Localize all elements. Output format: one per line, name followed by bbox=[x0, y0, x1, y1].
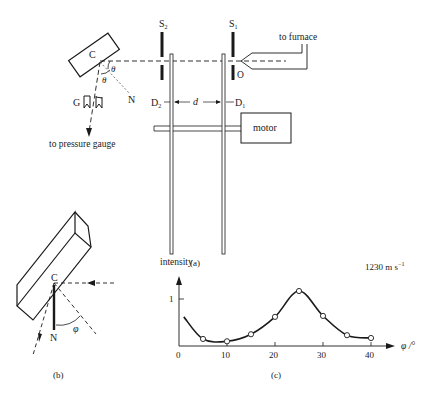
x-tick-label-40: 40 bbox=[365, 350, 375, 360]
label-s2: S2 bbox=[159, 18, 168, 30]
arrow-down-icon bbox=[86, 128, 92, 137]
theta-arc-1 bbox=[108, 61, 110, 69]
label-c: C bbox=[51, 272, 58, 283]
disc-d2 bbox=[170, 54, 173, 254]
label-to-furnace: to furnace bbox=[279, 32, 317, 42]
y-axis-label: intensity bbox=[160, 257, 193, 267]
caption-c: (c) bbox=[271, 370, 281, 380]
speed-label: 1230 m s−1 bbox=[365, 261, 404, 272]
y-tick-label: 1 bbox=[169, 294, 174, 304]
label-motor: motor bbox=[253, 122, 278, 133]
data-point-marker bbox=[200, 336, 205, 341]
x-tick-label-30: 30 bbox=[317, 350, 327, 360]
label-theta-1: θ bbox=[111, 64, 116, 74]
data-point-marker bbox=[368, 335, 373, 340]
data-point-marker bbox=[224, 339, 229, 344]
label-to-pressure-gauge: to pressure gauge bbox=[49, 139, 115, 149]
crystal-end-face bbox=[75, 212, 91, 247]
x-tick-label-0: 0 bbox=[176, 350, 181, 360]
x-axis-arrow-icon bbox=[386, 343, 395, 349]
data-markers bbox=[200, 288, 373, 343]
panel-b-lines: C N φ (b) bbox=[33, 272, 117, 380]
crystal-top-edge bbox=[17, 212, 75, 306]
data-point-marker bbox=[320, 313, 325, 318]
x-axis-label: φ /° bbox=[401, 341, 415, 351]
label-s1: S1 bbox=[229, 18, 238, 30]
scattered-beam bbox=[33, 283, 54, 355]
disc-d1 bbox=[222, 54, 225, 254]
label-n: N bbox=[128, 94, 135, 105]
figure-canvas: C θ θ N G to pressure gauge S2 S1 bbox=[0, 0, 436, 395]
x-ticks bbox=[227, 342, 371, 346]
label-phi: φ bbox=[73, 323, 79, 334]
data-point-marker bbox=[248, 332, 253, 337]
panel-c-chart: 1 0 10 20 30 40 intensity φ /° 1230 m s−… bbox=[160, 257, 415, 380]
data-point-marker bbox=[344, 333, 349, 338]
x-tick-label-10: 10 bbox=[221, 350, 231, 360]
furnace-nozzle bbox=[241, 44, 307, 69]
arrow-down-icon bbox=[38, 333, 42, 342]
data-point-marker bbox=[296, 288, 301, 293]
label-g: G bbox=[73, 97, 80, 108]
label-d2: D2 bbox=[151, 97, 161, 109]
caption-b: (b) bbox=[53, 370, 64, 380]
y-axis-arrow-icon bbox=[176, 276, 182, 285]
motor-shaft bbox=[154, 126, 241, 131]
arrow-left-icon bbox=[174, 100, 179, 104]
label-o: O bbox=[237, 70, 244, 80]
label-d: d bbox=[193, 96, 199, 107]
label-n: N bbox=[50, 332, 57, 343]
x-tick-label-20: 20 bbox=[269, 350, 279, 360]
data-point-marker bbox=[272, 314, 277, 319]
theta-arc-2 bbox=[101, 70, 110, 74]
label-theta-2: θ bbox=[102, 75, 107, 85]
arrow-right-icon bbox=[216, 100, 221, 104]
label-c: C bbox=[89, 49, 96, 60]
arrow-left-icon bbox=[87, 280, 95, 286]
label-d1: D1 bbox=[235, 97, 245, 109]
